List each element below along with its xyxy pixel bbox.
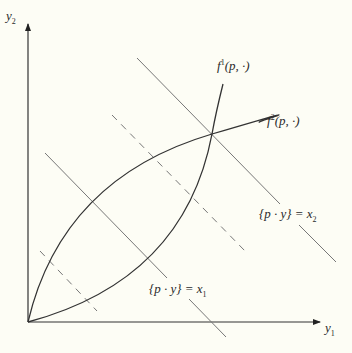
isoprofit-x2-label: {p · y} = x2 [259, 206, 316, 224]
curve-f2-label: f2(p, ·) [267, 113, 300, 129]
diagram-canvas: y2 y1 f1(p, ·) f2(p, ·) {p · y} = x2 {p … [0, 0, 352, 353]
dashed-line-upper [112, 115, 246, 252]
isoprofit-line-x1-lower [189, 299, 226, 337]
isoprofit-line-x2-upper [137, 58, 280, 204]
dashed-line-lower [40, 251, 97, 311]
curve-f1-label: f1(p, ·) [217, 58, 250, 74]
y1-axis-label: y1 [325, 320, 335, 338]
y2-axis-label: y2 [6, 8, 16, 26]
diagram-svg [0, 0, 352, 353]
isoprofit-line-x2-lower [299, 225, 336, 262]
isoprofit-line-x1-upper [45, 153, 167, 278]
isoprofit-x1-label: {p · y} = x1 [149, 281, 206, 299]
